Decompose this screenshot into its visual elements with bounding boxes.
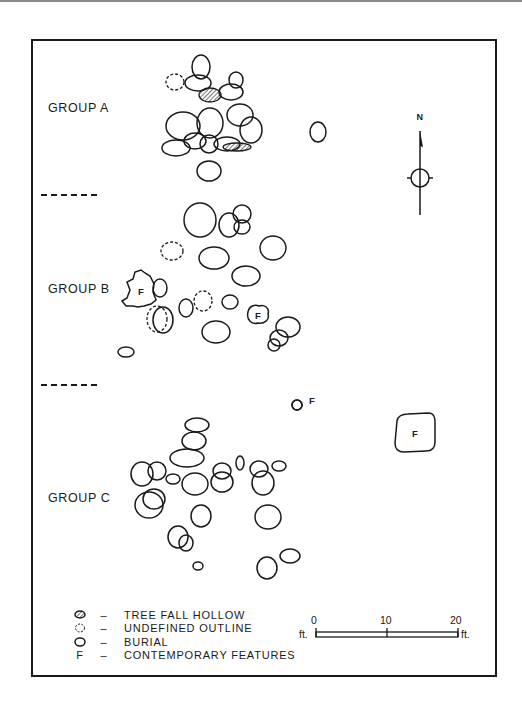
legend-item-contemporary-features: F – CONTEMPORARY FEATURES: [72, 649, 295, 663]
burial: [280, 549, 300, 563]
group-a-label: GROUP A: [48, 101, 109, 115]
legend-label: TREE FALL HOLLOW: [124, 609, 245, 621]
burial: [182, 432, 206, 450]
undefined-outline: [161, 242, 183, 260]
group-c-label: GROUP C: [48, 491, 110, 505]
burial: [222, 295, 238, 309]
burial: [255, 505, 281, 529]
burial-features: [118, 55, 326, 579]
legend-dash: –: [94, 609, 114, 621]
legend-label: CONTEMPORARY FEATURES: [124, 649, 295, 661]
contemporary-feature-label: F: [255, 310, 261, 321]
legend-label: UNDEFINED OUTLINE: [124, 622, 253, 634]
burial: [162, 140, 190, 156]
scale-bar-graphic: [296, 612, 476, 652]
burial: [270, 330, 288, 346]
group-divider-bc: [41, 384, 97, 386]
burial: [232, 266, 260, 286]
dashed-circle-icon: [72, 622, 88, 634]
tree-fall-hollow: [199, 88, 221, 102]
burial: [202, 321, 230, 343]
burial: [135, 492, 163, 518]
tree-fall-hollow: [223, 143, 251, 151]
contemporary-feature-label: F: [138, 286, 144, 297]
burial: [191, 505, 211, 527]
burial: [166, 474, 180, 484]
legend: – TREE FALL HOLLOW – UNDEFINED OUTLINE –…: [72, 608, 295, 662]
group-b-label: GROUP B: [48, 282, 110, 296]
tree-fall-hollow-features: [199, 88, 251, 151]
burial: [170, 449, 204, 467]
burial: [182, 473, 208, 495]
north-label: N: [417, 112, 424, 122]
legend-item-burial: – BURIAL: [72, 635, 295, 649]
legend-label: BURIAL: [124, 636, 169, 648]
burial: [250, 461, 268, 477]
burial: [260, 236, 286, 260]
legend-item-undefined-outline: – UNDEFINED OUTLINE: [72, 622, 295, 636]
north-arrow: [407, 131, 433, 215]
burial: [211, 472, 233, 492]
group-divider-ab: [41, 194, 97, 196]
undefined-outline: [166, 74, 184, 90]
burial: [185, 418, 209, 432]
legend-dash: –: [94, 636, 114, 648]
contemporary-features: [122, 270, 435, 452]
burial: [168, 526, 188, 548]
scale-bar: 0 10 20 ft. ft.: [296, 612, 476, 652]
undefined-outline: [194, 291, 212, 311]
burial: [252, 471, 274, 495]
letter-f-icon: F: [72, 649, 88, 661]
burial: [153, 279, 167, 297]
burial: [310, 122, 326, 142]
legend-dash: –: [94, 622, 114, 634]
burial: [193, 562, 203, 570]
burial: [179, 299, 193, 317]
contemporary-feature-label: F: [412, 428, 418, 439]
burial: [276, 317, 300, 337]
burial: [219, 213, 239, 237]
oval-icon: [72, 636, 88, 648]
contemporary-feature-label: F: [309, 395, 315, 406]
burial: [118, 347, 134, 357]
burial: [197, 161, 221, 181]
contemporary-feature-small-circle: [292, 400, 302, 410]
burial: [272, 461, 286, 471]
burial: [236, 456, 244, 470]
burial: [148, 462, 166, 480]
burial: [257, 557, 277, 579]
burial: [199, 247, 229, 269]
legend-item-tree-fall-hollow: – TREE FALL HOLLOW: [72, 608, 295, 622]
burial: [234, 220, 250, 234]
hatched-oval-icon: [72, 609, 88, 621]
burial: [166, 112, 200, 140]
burial: [213, 463, 231, 479]
burial: [229, 72, 243, 88]
legend-dash: –: [94, 649, 114, 661]
burial: [184, 203, 216, 237]
burial: [227, 104, 253, 126]
